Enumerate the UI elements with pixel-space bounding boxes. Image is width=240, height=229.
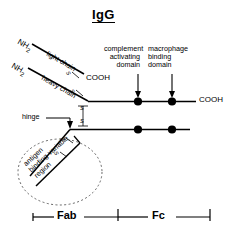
macrophage-binding-domain-arrow [169,74,175,98]
complement-activating-domain-marker-upper [134,97,142,105]
macrophage-binding-domain-caption: macrophage binding domain [148,45,192,69]
scale-bar-label-fc: Fc [152,210,165,222]
caption-line: domain [104,61,140,69]
light-chain-c-terminus: COOH [86,74,110,83]
macrophage-binding-domain-marker-lower [168,125,176,133]
scale-bar-label-fab: Fab [57,210,77,222]
figure-title: IgG [92,8,115,23]
hinge-leader [46,118,73,129]
disulfide-s-upper: S [80,105,84,111]
igg-diagram: IgG NH2 light chain NH2 heavy chain COOH… [0,0,240,229]
complement-activating-domain-marker-lower [134,125,142,133]
complement-activating-domain-caption: complement activating domain [104,45,140,69]
hinge-label: hinge [22,113,40,121]
heavy-chain-c-terminus: COOH [199,96,223,105]
macrophage-binding-domain-marker-upper [168,97,176,105]
caption-line: domain [148,61,192,69]
complement-activating-domain-arrow [135,74,141,98]
disulfide-s-lower: S [80,118,84,124]
